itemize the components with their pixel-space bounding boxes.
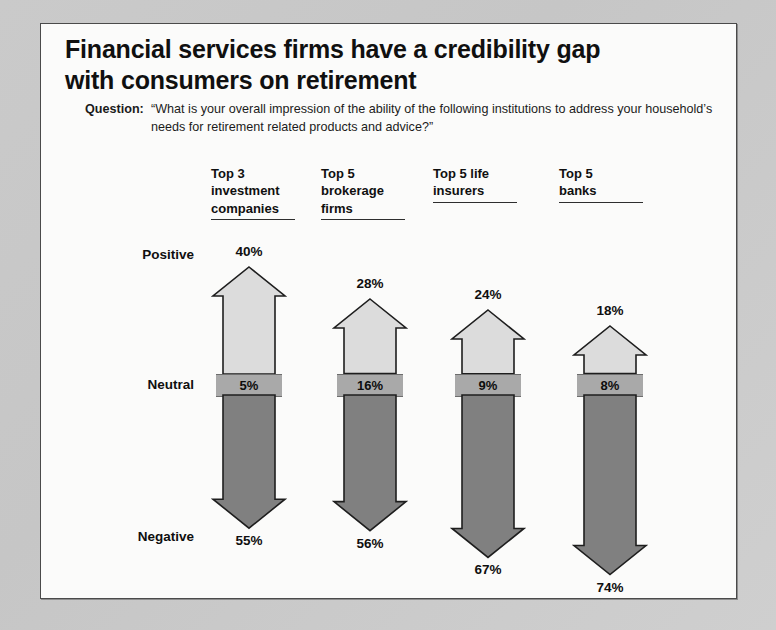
neutral-value-3: 9% xyxy=(479,378,498,393)
neutral-value-4: 8% xyxy=(601,378,620,393)
row-label-positive: Positive xyxy=(61,247,194,262)
negative-value-3: 67% xyxy=(448,562,528,577)
scanned-page: Financial services firms have a credibil… xyxy=(0,0,776,630)
column-header-line: Top 3 xyxy=(211,165,295,182)
neutral-band-1: 5% xyxy=(216,374,282,397)
negative-value-1: 55% xyxy=(209,533,289,548)
positive-arrow-2 xyxy=(333,298,407,374)
column-header-line: Top 5 xyxy=(321,165,405,182)
row-label-neutral: Neutral xyxy=(61,377,194,392)
column-header-line: Top 5 xyxy=(559,165,643,182)
neutral-band-4: 8% xyxy=(577,374,643,397)
positive-value-4: 18% xyxy=(570,303,650,318)
column-header-line: companies xyxy=(211,200,295,217)
neutral-band-2: 16% xyxy=(337,374,403,397)
positive-value-1: 40% xyxy=(209,244,289,259)
column-header-3: Top 5 lifeinsurers xyxy=(433,165,517,203)
column-header-2: Top 5brokeragefirms xyxy=(321,165,405,220)
column-header-4: Top 5banks xyxy=(559,165,643,203)
positive-arrow-4 xyxy=(573,325,647,374)
row-label-negative: Negative xyxy=(61,529,194,544)
neutral-value-1: 5% xyxy=(240,378,259,393)
negative-arrow-2 xyxy=(333,395,407,532)
slide-panel: Financial services firms have a credibil… xyxy=(40,23,737,599)
neutral-value-2: 16% xyxy=(357,378,383,393)
column-header-line: investment xyxy=(211,182,295,199)
column-header-line: firms xyxy=(321,200,405,217)
column-header-line: banks xyxy=(559,182,643,199)
column-header-line: insurers xyxy=(433,182,517,199)
column-header-line: Top 5 life xyxy=(433,165,517,182)
positive-value-2: 28% xyxy=(330,276,410,291)
negative-arrow-1 xyxy=(212,395,286,529)
negative-value-2: 56% xyxy=(330,536,410,551)
positive-arrow-1 xyxy=(212,266,286,374)
negative-arrow-4 xyxy=(573,395,647,576)
positive-arrow-3 xyxy=(451,309,525,374)
column-header-line: brokerage xyxy=(321,182,405,199)
negative-arrow-3 xyxy=(451,395,525,558)
negative-value-4: 74% xyxy=(570,580,650,595)
positive-value-3: 24% xyxy=(448,287,528,302)
neutral-band-3: 9% xyxy=(455,374,521,397)
arrow-chart: PositiveNeutralNegativeTop 3investmentco… xyxy=(41,24,736,598)
column-header-1: Top 3investmentcompanies xyxy=(211,165,295,220)
